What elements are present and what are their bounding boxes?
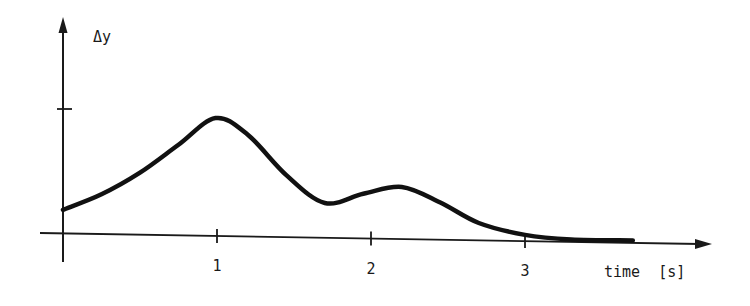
- x-tick-label: 1: [212, 257, 221, 275]
- data-curve: [63, 118, 633, 240]
- x-axis-label: time [s]: [604, 263, 685, 281]
- line-chart: 123 Δy time [s]: [0, 0, 750, 306]
- y-axis-arrow-icon: [59, 17, 68, 33]
- x-tick-label: 3: [520, 262, 529, 280]
- x-axis-arrow-icon: [695, 239, 712, 249]
- y-axis-label: Δy: [93, 28, 111, 46]
- x-tick-label: 2: [366, 260, 375, 278]
